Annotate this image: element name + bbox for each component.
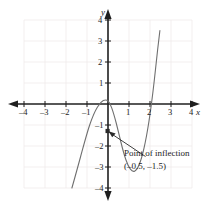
x-tick-label-2: 2 [147, 108, 151, 117]
x-tick-label--3: –3 [40, 108, 49, 117]
x-tick-label--4: –4 [19, 108, 28, 117]
inflection-point-marker [106, 129, 110, 133]
y-tick-label--4: –4 [95, 184, 104, 193]
y-tick-label--3: –3 [95, 163, 104, 172]
x-tick-label-4: 4 [189, 108, 193, 117]
graph-figure: –4 –3 –2 –1 1 2 3 4 4 3 2 1 –1 –2 –3 –4 … [0, 0, 208, 207]
x-tick-label-1: 1 [126, 108, 130, 117]
y-tick-label-3: 3 [98, 37, 102, 46]
y-tick-label--1: –1 [95, 121, 104, 130]
x-tick-label-3: 3 [168, 108, 172, 117]
y-tick-label--2: –2 [95, 142, 104, 151]
x-tick-label--1: –1 [82, 108, 91, 117]
x-tick-label--2: –2 [61, 108, 70, 117]
y-tick-label-2: 2 [98, 58, 102, 67]
cubic-function-plot [0, 0, 208, 207]
x-axis-label: x [196, 108, 200, 117]
inflection-annotation-coords: (–0.5, –1.5) [124, 161, 166, 172]
y-axis-label: y [101, 8, 105, 17]
y-tick-label-1: 1 [99, 79, 103, 88]
inflection-annotation-title: Point of inflection [124, 148, 190, 159]
y-tick-label-4: 4 [98, 16, 102, 25]
